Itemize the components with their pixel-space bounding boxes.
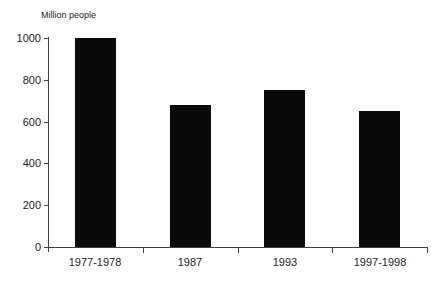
bar-1997-1998	[359, 111, 400, 247]
x-axis-category-label: 1987	[145, 256, 235, 269]
x-axis-tick	[143, 248, 144, 253]
y-axis-tick-label: 0	[0, 241, 41, 254]
x-axis-tick	[238, 248, 239, 253]
y-axis-line	[48, 37, 49, 252]
bar-chart: Million people 02004006008001000 1977-19…	[0, 0, 443, 282]
y-axis-unit-label: Million people	[41, 10, 96, 21]
x-axis-tick	[332, 248, 333, 253]
x-axis-category-label: 1997-1998	[335, 256, 425, 269]
y-axis-tick	[44, 205, 48, 206]
y-axis-tick-label: 1000	[0, 32, 41, 45]
x-axis-category-label: 1977-1978	[50, 256, 140, 269]
y-axis-tick	[44, 38, 48, 39]
x-axis-category-label: 1993	[240, 256, 330, 269]
y-axis-tick-label: 400	[0, 157, 41, 170]
y-axis-tick	[44, 122, 48, 123]
x-axis-tick	[427, 248, 428, 253]
bar-1993	[264, 90, 305, 247]
y-axis-tick	[44, 80, 48, 81]
y-axis-tick	[44, 163, 48, 164]
y-axis-tick-label: 600	[0, 116, 41, 129]
y-axis-tick-label: 800	[0, 74, 41, 87]
y-axis-tick	[44, 247, 48, 248]
bar-1987	[170, 105, 211, 247]
y-axis-tick-label: 200	[0, 199, 41, 212]
bar-1977-1978	[75, 38, 116, 247]
